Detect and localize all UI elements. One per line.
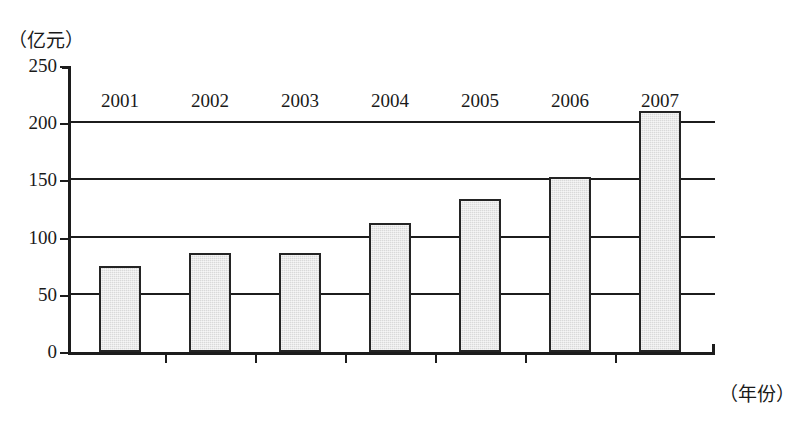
y-tick-label: 50: [38, 284, 57, 306]
x-tick-label-2002: 2002: [191, 90, 229, 112]
bar-2007: [639, 111, 681, 352]
y-tick-label: 150: [29, 169, 58, 191]
x-tick-mark: [615, 355, 617, 363]
bar-2004: [369, 223, 411, 352]
x-tick-label-2004: 2004: [371, 90, 409, 112]
x-tick-mark: [525, 355, 527, 363]
bar-2002: [189, 253, 231, 352]
y-tick-label: 250: [29, 55, 58, 77]
x-tick-mark: [345, 355, 347, 363]
x-tick-label-2005: 2005: [461, 90, 499, 112]
y-tick-mark: [60, 66, 68, 68]
y-tick-mark: [60, 123, 68, 125]
y-tick-mark: [60, 180, 68, 182]
x-tick-label-2006: 2006: [551, 90, 589, 112]
x-axis-end-tick: [712, 344, 715, 355]
y-axis-unit-label: （亿元）: [8, 25, 84, 52]
x-axis-unit-label: （年份）: [719, 379, 787, 406]
gridline-200: [68, 121, 715, 123]
y-tick-label: 200: [29, 112, 58, 134]
y-axis-line: [68, 66, 71, 355]
bar-2001: [99, 266, 141, 353]
y-tick-mark: [60, 295, 68, 297]
bar-2006: [549, 177, 591, 352]
bar-2005: [459, 199, 501, 352]
x-tick-label-2001: 2001: [101, 90, 139, 112]
x-tick-mark: [255, 355, 257, 363]
x-tick-label-2003: 2003: [281, 90, 319, 112]
x-tick-mark: [435, 355, 437, 363]
x-tick-mark: [165, 355, 167, 363]
gridline-150: [68, 178, 715, 180]
y-tick-label: 0: [48, 341, 58, 363]
y-tick-label: 100: [29, 227, 58, 249]
plot-area: 050100150200250 200120022003200420052006…: [68, 66, 715, 355]
y-tick-mark: [60, 352, 68, 354]
bar-2003: [279, 253, 321, 352]
x-tick-label-2007: 2007: [641, 90, 679, 112]
y-tick-mark: [60, 238, 68, 240]
